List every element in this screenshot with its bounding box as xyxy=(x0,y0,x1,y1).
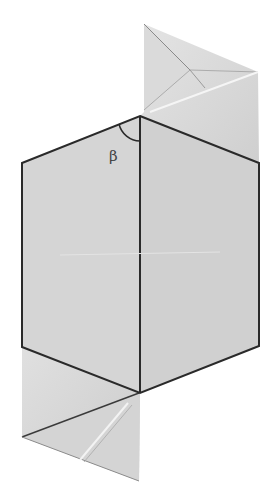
angle-beta-label: β xyxy=(109,147,118,165)
hexagon-face xyxy=(22,116,259,393)
fold-diagram xyxy=(0,0,280,502)
